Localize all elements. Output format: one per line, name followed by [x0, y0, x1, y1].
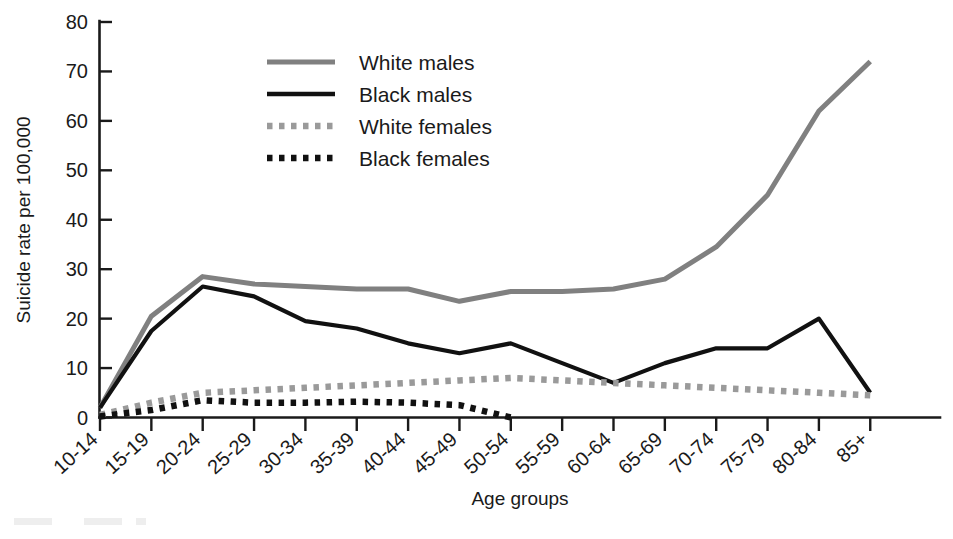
x-category-label-text: 25-29	[203, 428, 256, 479]
x-category-label-text: 15-19	[100, 428, 153, 479]
y-tick-labels: 01020304050607080	[66, 11, 88, 429]
x-category-label: 30-34	[254, 428, 307, 479]
y-tick-label: 30	[66, 258, 88, 280]
page-artifact	[14, 518, 164, 525]
x-category-label: 45-49	[408, 428, 461, 479]
x-category-label: 75-79	[716, 428, 769, 479]
x-category-label: 80-84	[768, 428, 821, 479]
y-tick-label: 20	[66, 308, 88, 330]
x-category-label-text: 45-49	[408, 428, 461, 479]
y-tick-label: 0	[77, 407, 88, 429]
legend-label: Black males	[359, 83, 472, 106]
x-category-label-text: 85+	[832, 428, 872, 467]
legend-label: Black females	[359, 147, 490, 170]
x-category-label-text: 40-44	[357, 428, 410, 479]
x-category-labels: 10-1415-1920-2425-2930-3435-3940-4445-49…	[49, 428, 872, 479]
x-category-label-text: 35-39	[306, 428, 359, 479]
series-line-white-males	[100, 62, 870, 408]
x-category-label: 85+	[832, 428, 872, 467]
series-line-black-males	[100, 286, 870, 407]
legend-item-black-males: Black males	[267, 83, 472, 106]
x-category-label: 15-19	[100, 428, 153, 479]
x-category-label: 20-24	[152, 428, 205, 479]
x-category-label: 10-14	[49, 428, 102, 479]
y-tick-marks	[100, 22, 113, 418]
y-tick-label: 50	[66, 159, 88, 181]
x-category-label-text: 20-24	[152, 428, 205, 479]
chart-figure: Suicide rate per 100,000 010203040506070…	[0, 0, 953, 539]
line-chart-svg: Suicide rate per 100,000 010203040506070…	[0, 0, 953, 539]
legend-item-white-males: White males	[267, 51, 475, 74]
y-tick-label: 40	[66, 209, 88, 231]
x-category-label-text: 50-54	[460, 428, 513, 479]
x-category-label: 50-54	[460, 428, 513, 479]
x-category-label-text: 75-79	[716, 428, 769, 479]
legend-label: White females	[359, 115, 492, 138]
x-category-label-text: 55-59	[511, 428, 564, 479]
x-category-label: 25-29	[203, 428, 256, 479]
x-category-label-text: 60-64	[562, 428, 615, 479]
x-category-label-text: 65-69	[614, 428, 667, 479]
legend-item-black-females: Black females	[267, 147, 490, 170]
x-category-label: 70-74	[665, 428, 718, 479]
y-tick-label: 10	[66, 357, 88, 379]
y-tick-label: 80	[66, 11, 88, 33]
y-tick-label: 60	[66, 110, 88, 132]
x-category-label: 55-59	[511, 428, 564, 479]
legend-label: White males	[359, 51, 475, 74]
x-category-label-text: 80-84	[768, 428, 821, 479]
x-axis-title: Age groups	[471, 488, 568, 509]
y-axis-title: Suicide rate per 100,000	[13, 116, 34, 323]
x-category-label-text: 70-74	[665, 428, 718, 479]
x-category-label: 40-44	[357, 428, 410, 479]
x-category-label-text: 30-34	[254, 428, 307, 479]
chart-legend: White malesBlack malesWhite femalesBlack…	[267, 51, 492, 170]
x-category-label-text: 10-14	[49, 428, 102, 479]
x-category-label: 60-64	[562, 428, 615, 479]
x-category-label: 65-69	[614, 428, 667, 479]
y-tick-label: 70	[66, 60, 88, 82]
x-category-label: 35-39	[306, 428, 359, 479]
legend-item-white-females: White females	[267, 115, 492, 138]
